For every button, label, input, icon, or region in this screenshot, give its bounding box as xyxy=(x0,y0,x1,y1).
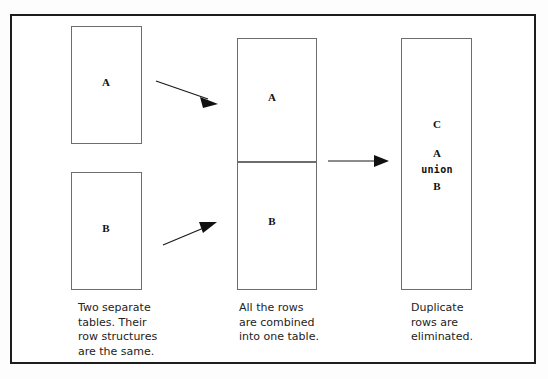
result-expression-operand-b: B xyxy=(433,180,441,192)
combined-table-lower-row xyxy=(237,162,317,290)
result-table-label: C xyxy=(433,118,441,130)
result-expression-operand-a: A xyxy=(433,147,441,159)
table-box-b-label: B xyxy=(102,222,110,234)
caption-source-tables: Two separate tables. Their row structure… xyxy=(78,301,188,359)
combined-table-upper-label: A xyxy=(268,91,276,103)
combined-table-upper-row xyxy=(237,38,317,162)
result-expression-operator: union xyxy=(421,164,453,175)
caption-result-table: Duplicate rows are eliminated. xyxy=(411,301,521,345)
combined-table-lower-label: B xyxy=(268,215,276,227)
caption-combined-table: All the rows are combined into one table… xyxy=(239,301,349,345)
diagram-canvas: A B Two separate tables. Their row struc… xyxy=(0,0,548,379)
table-box-a-label: A xyxy=(102,76,110,88)
